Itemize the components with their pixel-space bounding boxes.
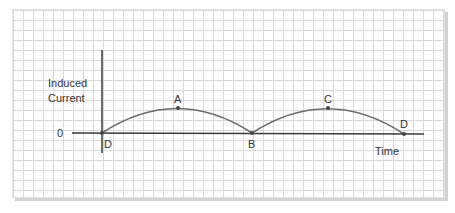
point-d-start: [100, 131, 104, 135]
label-d-end: D: [400, 118, 408, 130]
y-axis-label-line1: Induced: [48, 77, 87, 89]
induced-current-graph: Induced Current 0 Time D A B C D: [0, 0, 455, 213]
label-c: C: [324, 93, 332, 105]
x-axis-label: Time: [375, 145, 399, 157]
point-c: [326, 106, 330, 110]
y-axis-label-line2: Current: [48, 92, 85, 104]
point-b: [250, 131, 254, 135]
origin-zero-label: 0: [57, 127, 63, 139]
point-a: [176, 106, 180, 110]
label-a: A: [174, 93, 182, 105]
x-axis: [72, 133, 424, 134]
label-d-start: D: [104, 138, 112, 150]
point-d-end: [402, 132, 406, 136]
induced-current-curve: [102, 109, 404, 135]
label-b: B: [248, 138, 255, 150]
